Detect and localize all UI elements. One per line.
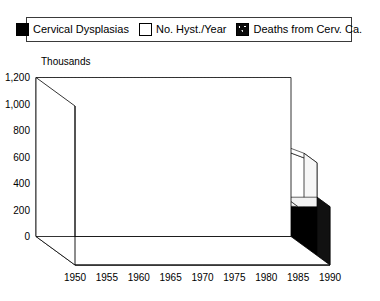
chart-legend: Cervical Dysplasias No. Hyst./Year Death… xyxy=(26,17,352,42)
x-axis-tick-label: 1955 xyxy=(96,272,119,283)
y-axis-tick-label: 0 xyxy=(24,231,30,242)
x-axis-tick-label: 1960 xyxy=(128,272,151,283)
x-axis-tick-label: 1990 xyxy=(319,272,342,283)
y-axis-tick-label: 400 xyxy=(13,178,30,189)
x-axis-tick-label: 1980 xyxy=(255,272,278,283)
legend-label: Deaths from Cerv. Ca. xyxy=(253,24,362,35)
axis-unit-title: Thousands xyxy=(41,56,90,67)
x-axis-tick-label: 1975 xyxy=(223,272,246,283)
area-chart-svg: 02004006008001,0001,200 1950195519601965… xyxy=(0,52,380,301)
y-axis-tick-labels: 02004006008001,0001,200 xyxy=(5,72,30,242)
legend-label: Cervical Dysplasias xyxy=(33,24,129,35)
legend-item-deaths-from-cerv-ca[interactable]: Deaths from Cerv. Ca. xyxy=(236,23,362,36)
y-axis-tick-label: 600 xyxy=(13,152,30,163)
legend-item-cervical-dysplasias[interactable]: Cervical Dysplasias xyxy=(16,23,129,36)
y-axis-tick-label: 800 xyxy=(13,125,30,136)
legend-label: No. Hyst./Year xyxy=(156,24,227,35)
open-white-square-icon xyxy=(139,23,152,36)
chart-plot-area: 02004006008001,0001,200 1950195519601965… xyxy=(0,52,380,301)
x-axis-tick-label: 1985 xyxy=(287,272,310,283)
y-axis-tick-label: 200 xyxy=(13,205,30,216)
chart-figure: Cervical Dysplasias No. Hyst./Year Death… xyxy=(0,0,380,301)
y-axis-tick-label: 1,000 xyxy=(5,99,30,110)
x-axis-tick-label: 1970 xyxy=(191,272,214,283)
y-axis-tick-label: 1,200 xyxy=(5,72,30,83)
x-axis-tick-label: 1965 xyxy=(160,272,183,283)
x-axis-tick-labels: 195019551960196519701975198019851990 xyxy=(64,272,342,283)
y-axis-unit-title: Thousands xyxy=(41,56,90,67)
axis-frame xyxy=(36,78,330,266)
legend-item-no-hyst-per-year[interactable]: No. Hyst./Year xyxy=(139,23,227,36)
x-axis-tick-label: 1950 xyxy=(64,272,87,283)
solid-black-square-icon xyxy=(16,23,29,36)
speckled-dark-square-icon xyxy=(236,23,249,36)
